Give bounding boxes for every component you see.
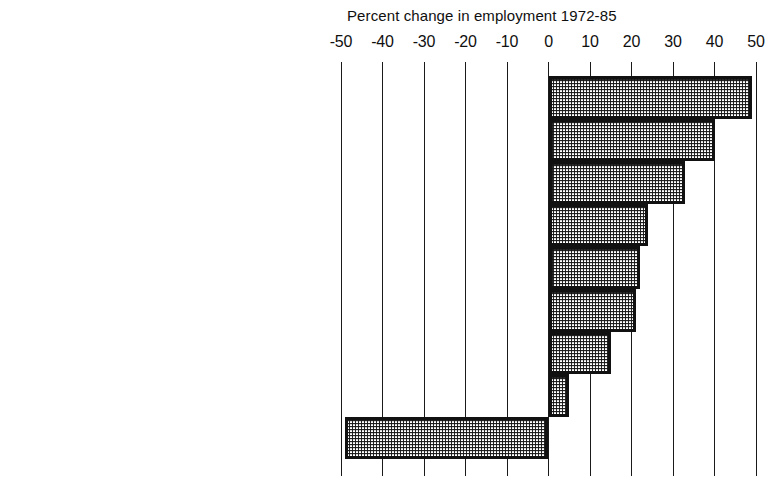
bar-2 — [549, 161, 686, 204]
bar-1 — [549, 119, 715, 162]
bar-6 — [549, 332, 611, 375]
bar-7 — [549, 374, 570, 417]
bar-3 — [549, 204, 649, 247]
bar-4 — [549, 246, 640, 289]
bar-series — [0, 0, 777, 494]
bar-8 — [345, 417, 548, 460]
bar-5 — [549, 289, 636, 332]
bar-0 — [549, 76, 752, 119]
employment-change-bar-chart: Percent change in employment 1972-85 -50… — [0, 0, 777, 494]
